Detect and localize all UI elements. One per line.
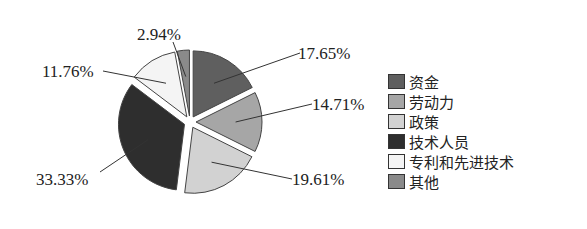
legend-label: 政策 [409, 111, 439, 132]
legend-label: 技术人员 [409, 131, 469, 152]
legend-item: 政策 [388, 111, 514, 131]
legend-label: 资金 [409, 71, 439, 92]
legend-swatch [388, 154, 405, 169]
slice-percent-label: 17.65% [298, 44, 350, 63]
slice-percent-label: 14.71% [312, 95, 364, 114]
legend-item: 资金 [388, 71, 514, 91]
legend-item: 技术人员 [388, 131, 514, 151]
legend-label: 其他 [409, 171, 439, 192]
slice-percent-label: 11.76% [42, 62, 94, 81]
legend-swatch [388, 174, 405, 189]
legend-swatch [388, 74, 405, 89]
legend-swatch [388, 114, 405, 129]
legend-swatch [388, 134, 405, 149]
chart-legend: 资金 劳动力 政策 技术人员 专利和先进技术 其他 [388, 71, 514, 191]
slice-percent-label: 33.33% [36, 170, 88, 189]
legend-label: 劳动力 [409, 91, 454, 112]
legend-item: 劳动力 [388, 91, 514, 111]
legend-item: 专利和先进技术 [388, 151, 514, 171]
slice-percent-label: 19.61% [292, 170, 344, 189]
legend-swatch [388, 94, 405, 109]
legend-item: 其他 [388, 171, 514, 191]
legend-label: 专利和先进技术 [409, 151, 514, 172]
slice-percent-label: 2.94% [137, 25, 181, 44]
